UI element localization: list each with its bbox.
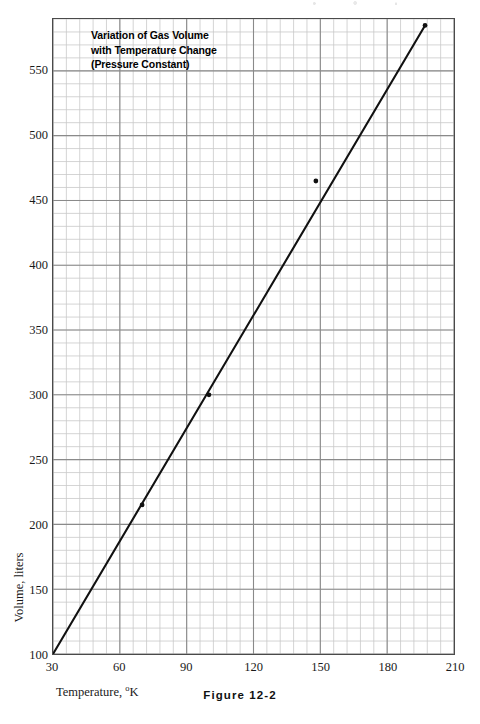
x-tick-label-60: 60 <box>96 661 142 674</box>
scan-artifact <box>300 1 420 6</box>
x-tick-label-150: 150 <box>298 661 344 674</box>
y-tick-label-550: 550 <box>2 64 48 77</box>
y-tick-label-250: 250 <box>2 454 48 467</box>
y-tick-label-300: 300 <box>2 389 48 402</box>
figure-caption: Figure 12-2 <box>0 689 480 701</box>
y-tick-label-350: 350 <box>2 324 48 337</box>
y-tick-label-500: 500 <box>2 129 48 142</box>
x-axis-tick-labels: 306090120150180210 <box>52 661 455 679</box>
x-tick-label-30: 30 <box>29 661 75 674</box>
plot-area: Variation of Gas Volume with Temperature… <box>52 18 455 655</box>
x-tick-label-180: 180 <box>365 661 411 674</box>
x-tick-label-90: 90 <box>163 661 209 674</box>
y-tick-label-100: 100 <box>2 649 48 662</box>
x-tick-label-120: 120 <box>231 661 277 674</box>
y-tick-label-450: 450 <box>2 194 48 207</box>
figure-12-2: Variation of Gas Volume with Temperature… <box>0 0 480 724</box>
y-tick-label-400: 400 <box>2 259 48 272</box>
data-series-line <box>53 19 454 654</box>
y-axis-title: Volume, liters <box>12 544 27 632</box>
y-tick-label-200: 200 <box>2 519 48 532</box>
x-tick-label-210: 210 <box>432 661 478 674</box>
